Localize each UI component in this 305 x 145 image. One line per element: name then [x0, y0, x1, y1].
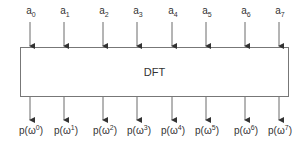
- dft-block-label: DFT: [20, 47, 289, 97]
- input-arrows: [30, 22, 279, 46]
- output-label-0: p(ω0): [19, 124, 43, 136]
- input-label-a6: a6: [241, 5, 250, 18]
- output-arrows: [30, 97, 279, 120]
- output-label-2: p(ω2): [93, 124, 117, 136]
- output-label-7: p(ω7): [268, 124, 292, 136]
- input-label-a7: a7: [275, 5, 284, 18]
- output-label-6: p(ω6): [234, 124, 258, 136]
- input-label-a4: a4: [168, 5, 177, 18]
- input-label-a5: a5: [202, 5, 211, 18]
- output-label-5: p(ω5): [195, 124, 219, 136]
- output-label-4: p(ω4): [161, 124, 185, 136]
- input-label-a0: a0: [26, 5, 35, 18]
- dft-label: DFT: [144, 66, 165, 78]
- output-label-3: p(ω3): [127, 124, 151, 136]
- input-label-a2: a2: [99, 5, 108, 18]
- input-label-a1: a1: [60, 5, 69, 18]
- output-label-1: p(ω1): [54, 124, 78, 136]
- input-label-a3: a3: [133, 5, 142, 18]
